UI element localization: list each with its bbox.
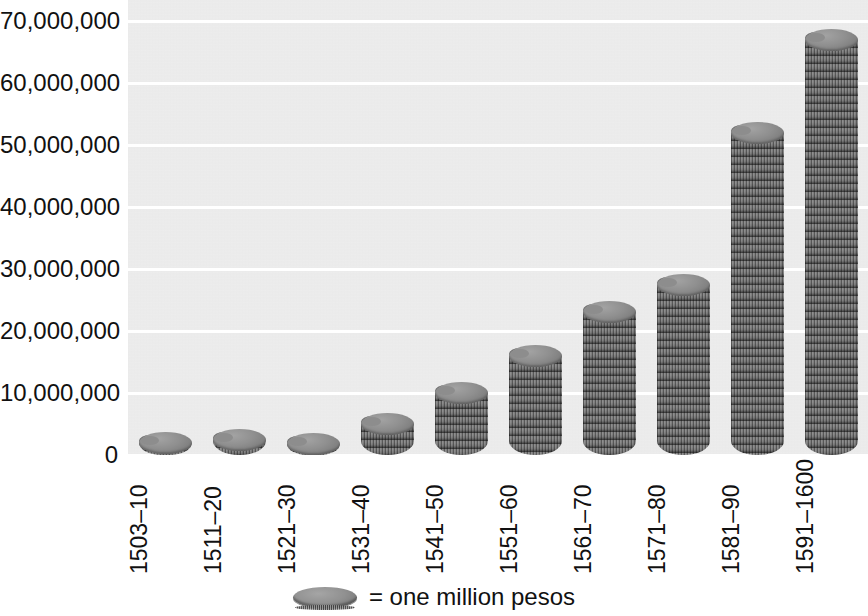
bar-coin-stack [731, 117, 784, 455]
x-axis-tick-label: 1591–1600 [818, 456, 844, 574]
coin-notch-inner [437, 386, 455, 395]
x-axis-tick-text: 1551–60 [496, 484, 522, 574]
coin-notch-inner [511, 349, 529, 358]
coin-stack-body [509, 356, 562, 455]
x-axis-tick-text: 1571–80 [644, 484, 670, 574]
x-axis-tick-label: 1511–20 [226, 456, 252, 574]
coin-stack-body [657, 285, 710, 456]
x-axis-tick-label: 1521–30 [300, 456, 326, 574]
x-axis-tick-text: 1521–30 [274, 484, 300, 574]
coin-stack [657, 269, 710, 456]
coin-notch-inner [141, 436, 159, 445]
x-axis-tick-text: 1511–20 [200, 486, 226, 574]
y-axis-tick-label: 10,000,000 [0, 381, 118, 405]
coin-stack-body [583, 312, 636, 455]
x-axis-tick-text: 1561–70 [570, 484, 596, 574]
y-axis-tick-label: 0 [0, 443, 118, 467]
bar-coin-stack [583, 296, 636, 455]
y-axis-tick-label: 30,000,000 [0, 257, 118, 281]
plot-area [128, 0, 868, 456]
x-axis-tick-text: 1591–1600 [792, 459, 818, 574]
bar-coin-stack [213, 424, 266, 456]
bar-coin-stack [435, 377, 488, 455]
coin-stack [287, 428, 340, 455]
x-axis-tick-text: 1581–90 [718, 484, 744, 574]
x-axis-tick-text: 1531–40 [348, 484, 374, 574]
x-axis-tick-label: 1503–10 [152, 456, 178, 574]
coin-stack [731, 117, 784, 455]
x-axis-tick-text: 1541–50 [422, 484, 448, 574]
y-axis-tick-label: 60,000,000 [0, 71, 118, 95]
coin-stack [509, 340, 562, 455]
coin-notch-inner [215, 433, 233, 442]
bar-coin-stack [657, 269, 710, 456]
x-axis-tick-label: 1561–70 [596, 456, 622, 574]
bar-coin-stack [139, 427, 192, 455]
x-axis-tick-label: 1571–80 [670, 456, 696, 574]
coin-stack [361, 408, 414, 455]
y-axis-tick-label: 20,000,000 [0, 319, 118, 343]
coin-stack [213, 424, 266, 456]
x-axis-tick-label: 1551–60 [522, 456, 548, 574]
coin-notch-inner [807, 33, 825, 42]
coin-stack [583, 296, 636, 455]
coin-notch-inner [289, 437, 307, 446]
x-axis-tick-label: 1531–40 [374, 456, 400, 574]
coin-stack [435, 377, 488, 455]
x-axis-tick-label: 1541–50 [448, 456, 474, 574]
coin-notch-inner [363, 417, 381, 426]
legend-label: = one million pesos [369, 585, 575, 609]
x-axis-tick-label: 1581–90 [744, 456, 770, 574]
coin-icon [293, 587, 357, 608]
coin-stack [805, 24, 858, 455]
y-axis-tick-label: 40,000,000 [0, 195, 118, 219]
coin-stack-body [805, 40, 858, 455]
bar-coin-stack [361, 408, 414, 455]
y-axis: 70,000,00060,000,00050,000,00040,000,000… [0, 0, 118, 470]
bar-coin-stack [509, 340, 562, 455]
coin-stack-bar-chart: 70,000,00060,000,00050,000,00040,000,000… [0, 0, 868, 616]
gridline [128, 82, 868, 85]
bar-coin-stack [287, 428, 340, 455]
x-axis: 1503–101511–201521–301531–401541–501551–… [128, 456, 868, 574]
coin-notch-inner [733, 126, 751, 135]
x-axis-tick-text: 1503–10 [126, 484, 152, 574]
y-axis-tick-label: 50,000,000 [0, 133, 118, 157]
coin-notch-inner [659, 278, 677, 287]
legend: = one million pesos [0, 578, 868, 616]
bar-coin-stack [805, 24, 858, 455]
gridline [128, 20, 868, 23]
coin-stack [139, 427, 192, 455]
coin-stack-body [731, 133, 784, 455]
y-axis-tick-label: 70,000,000 [0, 9, 118, 33]
